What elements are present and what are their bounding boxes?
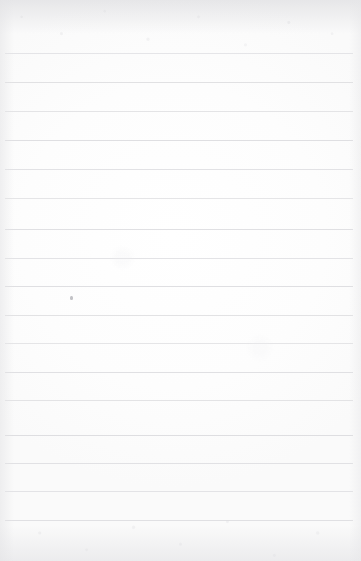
notebook-page bbox=[0, 0, 361, 561]
writing-area[interactable] bbox=[5, 53, 353, 521]
